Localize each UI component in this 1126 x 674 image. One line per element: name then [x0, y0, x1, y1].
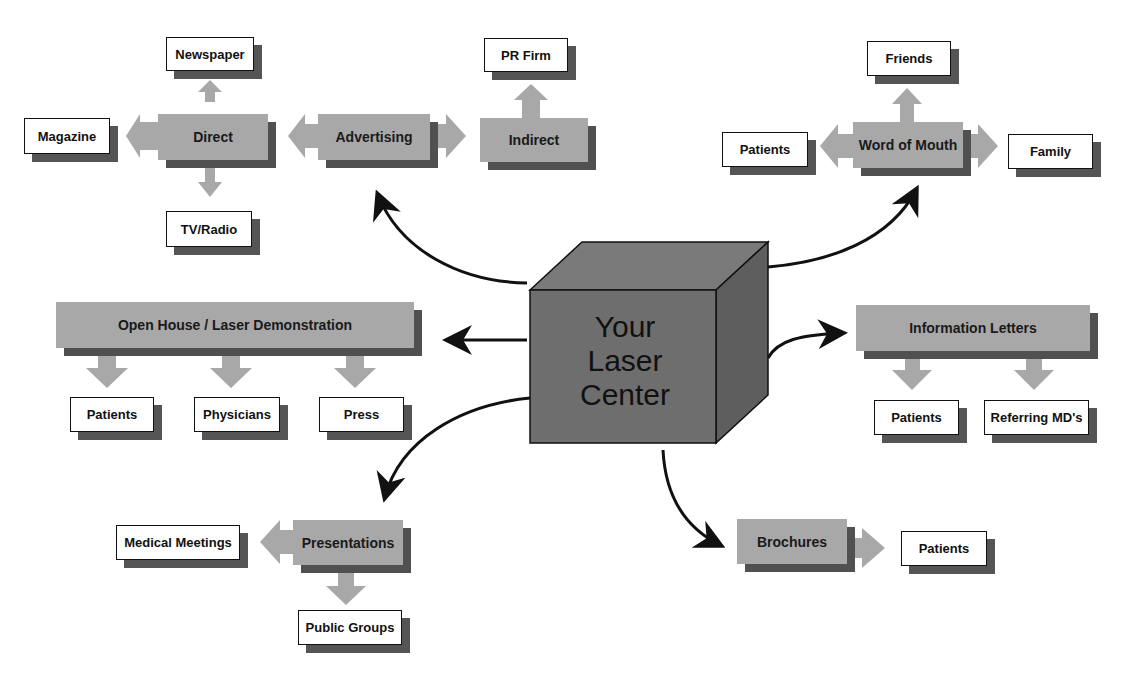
wom-patients-box: Patients: [722, 132, 808, 167]
advertising-box: Advertising: [318, 114, 430, 160]
laser-center-label: Your Laser Center: [545, 310, 705, 412]
physicians-box: Physicians: [194, 397, 280, 432]
family-box: Family: [1008, 134, 1093, 169]
indirect-box: Indirect: [480, 118, 588, 162]
brochures-box: Brochures: [737, 519, 847, 564]
open-house-patients-box: Patients: [70, 397, 154, 432]
presentations-box: Presentations: [293, 520, 403, 565]
public-groups-box: Public Groups: [298, 610, 402, 645]
referring-mds-box: Referring MD's: [984, 400, 1089, 435]
press-box: Press: [319, 397, 404, 432]
open-house-box: Open House / Laser Demonstration: [56, 302, 414, 348]
word-of-mouth-box: Word of Mouth: [853, 122, 963, 168]
info-patients-box: Patients: [874, 400, 959, 435]
tv-radio-box: TV/Radio: [166, 211, 252, 247]
pr-firm-box: PR Firm: [484, 38, 568, 72]
medical-meetings-box: Medical Meetings: [116, 525, 240, 560]
information-letters-box: Information Letters: [856, 305, 1090, 351]
direct-box: Direct: [158, 114, 268, 160]
magazine-box: Magazine: [24, 118, 110, 154]
brochures-patients-box: Patients: [901, 531, 987, 566]
newspaper-box: Newspaper: [166, 37, 254, 71]
friends-box: Friends: [867, 41, 951, 76]
